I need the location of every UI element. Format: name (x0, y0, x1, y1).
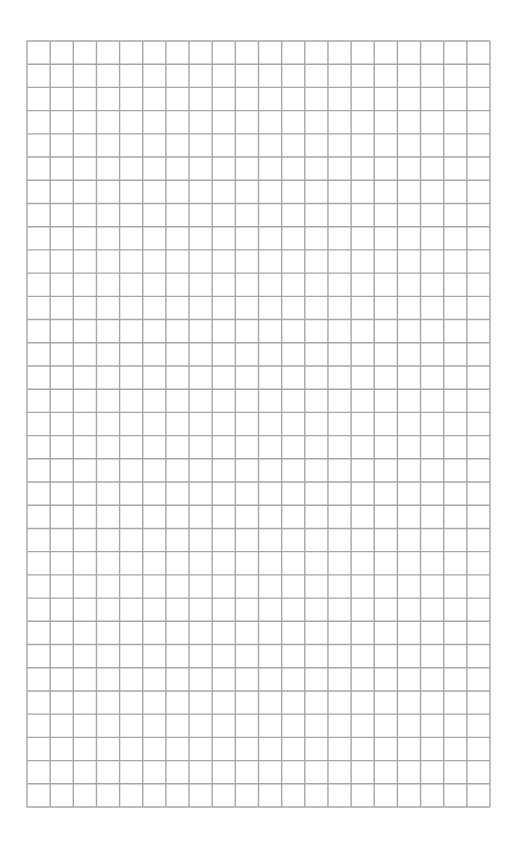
grid-lines (26, 40, 491, 808)
graph-paper-grid (26, 40, 491, 812)
